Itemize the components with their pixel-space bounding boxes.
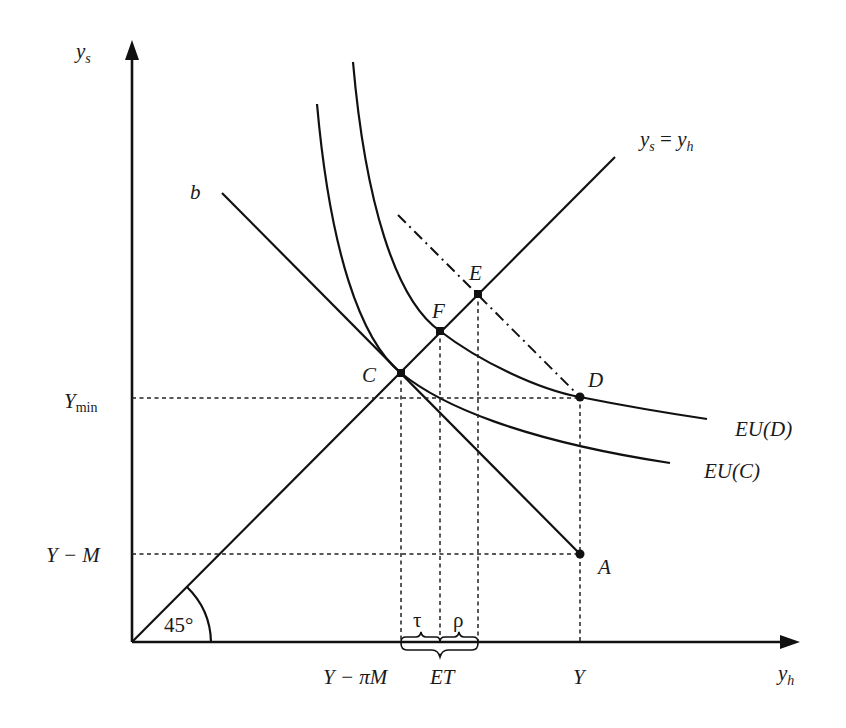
point-label-a: A bbox=[596, 555, 611, 579]
x-axis-label: yh bbox=[776, 661, 794, 688]
diagram-canvas: ys yh 45° ys = yh b EU(D) EU(C) A C D E … bbox=[0, 0, 846, 728]
y-axis-arrow-icon bbox=[125, 40, 139, 60]
indifference-curve-euc bbox=[317, 104, 670, 463]
x-axis-arrow-icon bbox=[780, 635, 800, 649]
et-label: ET bbox=[429, 665, 456, 689]
point-label-c: C bbox=[362, 363, 377, 387]
rho-label: ρ bbox=[453, 608, 463, 632]
point-d bbox=[576, 393, 585, 402]
rho-brace bbox=[440, 632, 478, 642]
point-label-e: E bbox=[468, 261, 482, 285]
y-axis-label: ys bbox=[74, 39, 91, 66]
point-label-f: F bbox=[431, 299, 445, 323]
et-brace bbox=[401, 643, 478, 657]
fair-odds-line bbox=[398, 215, 580, 397]
y-label: Y bbox=[573, 665, 587, 689]
point-e bbox=[474, 290, 482, 298]
tau-label: τ bbox=[413, 608, 421, 632]
tau-brace bbox=[401, 632, 440, 642]
y-minus-pim-label: Y − πM bbox=[323, 665, 389, 689]
ymin-label: Ymin bbox=[64, 389, 97, 415]
curve-label-euc: EU(C) bbox=[703, 459, 760, 483]
angle-label: 45° bbox=[164, 613, 193, 637]
budget-line-label: b bbox=[190, 180, 201, 204]
curve-label-eud: EU(D) bbox=[734, 417, 792, 441]
y-minus-m-label: Y − M bbox=[46, 543, 101, 567]
point-a bbox=[576, 550, 585, 559]
certainty-line-label: ys = yh bbox=[638, 127, 693, 154]
point-c bbox=[397, 369, 405, 377]
certainty-line bbox=[132, 157, 615, 642]
point-label-d: D bbox=[587, 368, 603, 392]
point-f bbox=[436, 327, 444, 335]
